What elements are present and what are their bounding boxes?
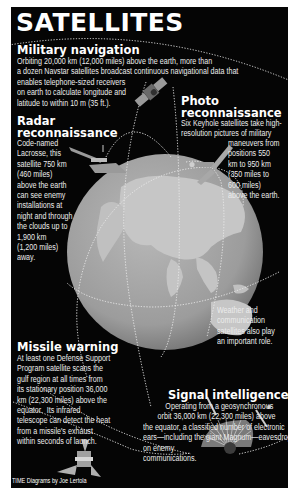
text-line: communication — [217, 315, 275, 325]
weather-communication-note: Weather andcommunicationsatellites also … — [217, 305, 275, 347]
photo-reconnaissance-heading: Photoreconnaissance — [181, 95, 282, 119]
text-line: on enemy — [143, 443, 288, 453]
text-line: maneuvers from — [228, 138, 280, 148]
text-line: Lacrosse, this — [17, 148, 73, 158]
signal-intelligence-text: Operating from a geosynchronousorbit 36,… — [143, 401, 288, 463]
photo-reconnaissance-text-top: Six Keyhole satellites take high-resolut… — [181, 118, 282, 139]
text-line: equator. Its infrared — [17, 405, 110, 415]
missile-warning-heading: Missile warning — [17, 341, 118, 353]
text-line: enables telephone-sized receivers — [17, 77, 238, 87]
text-line: communications. — [143, 453, 288, 463]
text-line: positions 550 — [228, 148, 280, 158]
text-line: installations at — [17, 200, 73, 210]
radar-reconnaissance-heading: Radarreconnaissance — [17, 115, 118, 139]
text-line: At least one Defense Support — [17, 353, 110, 363]
text-line: the clouds up to — [17, 221, 73, 231]
text-line: 600 miles) — [228, 180, 280, 190]
military-navigation-heading: Military navigation — [17, 44, 140, 56]
lacrosse-satellite-icon — [69, 145, 127, 173]
signal-intelligence-heading: Signal intelligence — [168, 389, 288, 401]
text-line: away. — [17, 252, 73, 262]
text-line: km (22,300 miles) above the — [17, 395, 110, 405]
text-line: (460 miles) — [17, 169, 73, 179]
text-line: satellite 750 km — [17, 159, 73, 169]
radar-reconnaissance-text: Code-namedLacrosse, thissatellite 750 km… — [17, 138, 73, 263]
text-line: the equator, a classified number of elec… — [143, 422, 288, 432]
text-line: above the earth — [17, 180, 73, 190]
page-title: SATELLITES — [16, 9, 184, 37]
text-line: (350 miles to — [228, 169, 280, 179]
credit-line: TIME Diagrams by Joe Lertola — [12, 477, 87, 485]
text-line: telescope can detect the heat — [17, 415, 110, 425]
text-line: Weather and — [217, 305, 275, 315]
text-line: satellites also play — [217, 326, 275, 336]
text-line: its stationary position 36,000 — [17, 384, 110, 394]
text-line: within seconds of launch. — [17, 436, 110, 446]
text-line: ears—including the giant Magnum—eavesdro… — [143, 432, 288, 442]
text-line: an important role. — [217, 336, 275, 346]
text-line: from a missile's exhaust — [17, 426, 110, 436]
text-line: Code-named — [17, 138, 73, 148]
text-line: Orbiting 20,000 km (12,000 miles) above … — [17, 56, 238, 66]
text-line: above the earth. — [228, 190, 280, 200]
text-line: Six Keyhole satellites take high- — [181, 118, 282, 128]
text-line: km to 950 km — [228, 159, 280, 169]
text-line: a dozen Navstar satellites broadcast con… — [17, 66, 238, 76]
text-line: night and through — [17, 211, 73, 221]
photo-reconnaissance-text-side: maneuvers frompositions 550km to 950 km(… — [228, 138, 280, 200]
text-line: gulf region at all times from — [17, 374, 110, 384]
text-line: (1,200 miles) — [17, 242, 73, 252]
text-line: Program satellite scans the — [17, 363, 110, 373]
missile-warning-text: At least one Defense SupportProgram sate… — [17, 353, 110, 447]
text-line: 1,900 km — [17, 232, 73, 242]
text-line: can see enemy — [17, 190, 73, 200]
infographic-panel: SATELLITES Military navigation Orbiting … — [11, 7, 288, 488]
text-line: Operating from a geosynchronous — [143, 401, 288, 411]
text-line: orbit 36,000 km (22,300 miles) above — [143, 411, 288, 421]
